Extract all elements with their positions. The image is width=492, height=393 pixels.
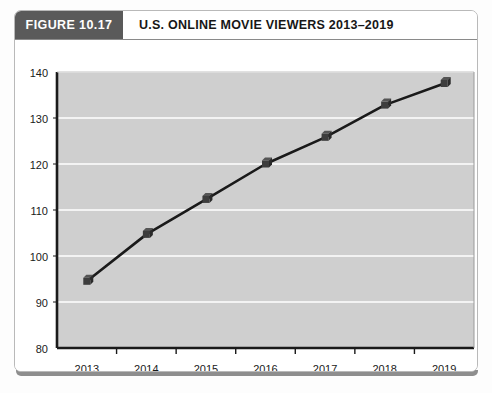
y-axis-label-90: 90 — [36, 297, 48, 309]
y-axis-label-130: 130 — [30, 113, 48, 125]
marker-front-face — [441, 80, 448, 87]
y-axis-label-140: 140 — [30, 67, 48, 79]
data-point-2016 — [262, 158, 272, 168]
data-point-2014 — [143, 228, 153, 238]
x-axis-label-2016: 2016 — [253, 363, 277, 372]
figure-page: FIGURE 10.17 U.S. ONLINE MOVIE VIEWERS 2… — [0, 0, 492, 393]
line-chart: 8090100110120130140201320142015201620172… — [15, 41, 478, 372]
marker-front-face — [83, 278, 90, 285]
x-axis-label-2015: 2015 — [194, 363, 218, 372]
x-axis-label-2014: 2014 — [134, 363, 158, 372]
data-point-2019 — [441, 77, 451, 87]
y-axis-label-120: 120 — [30, 159, 48, 171]
y-axis-label-110: 110 — [30, 205, 48, 217]
figure-card: FIGURE 10.17 U.S. ONLINE MOVIE VIEWERS 2… — [14, 10, 478, 372]
chart-area: 8090100110120130140201320142015201620172… — [15, 41, 478, 372]
marker-front-face — [262, 161, 269, 168]
y-axis-label-100: 100 — [30, 251, 48, 263]
marker-front-face — [202, 196, 209, 203]
marker-front-face — [381, 102, 388, 109]
x-axis-label-2019: 2019 — [432, 363, 456, 372]
figure-header: FIGURE 10.17 U.S. ONLINE MOVIE VIEWERS 2… — [15, 11, 478, 40]
figure-number-badge: FIGURE 10.17 — [15, 11, 123, 39]
marker-front-face — [143, 231, 150, 238]
x-axis-label-2018: 2018 — [372, 363, 396, 372]
y-axis-label-80: 80 — [36, 343, 48, 355]
x-axis-label-2017: 2017 — [313, 363, 337, 372]
data-point-2015 — [202, 193, 212, 203]
x-axis-label-2013: 2013 — [75, 363, 99, 372]
marker-front-face — [322, 134, 329, 141]
figure-title: U.S. ONLINE MOVIE VIEWERS 2013–2019 — [123, 11, 478, 39]
